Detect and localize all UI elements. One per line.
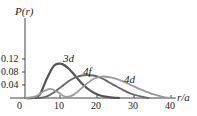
x-tick-label: 0 xyxy=(17,101,22,111)
chart-canvas xyxy=(0,0,197,116)
y-tick-label: 0.12 xyxy=(1,54,19,64)
x-tick-label: 10 xyxy=(54,101,64,111)
y-tick-label: 0.08 xyxy=(1,67,19,77)
series-label-3d: 3d xyxy=(63,53,74,64)
series-label-4f: 4f xyxy=(83,66,92,77)
radial-probability-chart: P(r) r/a 0.12 0.08 0.04 0 10 20 30 40 3d… xyxy=(0,0,197,116)
x-axis-label: r/a xyxy=(177,92,190,103)
x-tick-label: 40 xyxy=(165,101,175,111)
x-tick-label: 30 xyxy=(128,101,138,111)
x-tick-label: 20 xyxy=(91,101,101,111)
y-axis-label: P(r) xyxy=(15,6,33,17)
y-tick-label: 0.04 xyxy=(1,80,19,90)
series-curves xyxy=(25,64,171,99)
series-label-4d: 4d xyxy=(124,74,135,85)
